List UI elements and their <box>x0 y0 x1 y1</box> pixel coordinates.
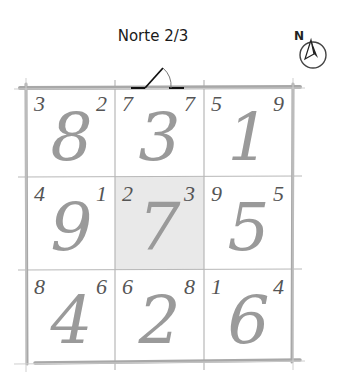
grid-cell-r1c1: 3 8 2 <box>27 87 116 179</box>
cell-right-number: 3 <box>184 183 195 205</box>
grid-cell-r3c2: 6 2 8 <box>115 270 204 362</box>
cell-right-number: 9 <box>273 93 284 115</box>
cell-right-number: 6 <box>96 276 107 298</box>
grid-cell-r1c3: 5 1 9 <box>204 87 293 179</box>
grid-cell-r2c2-center: 2 7 3 <box>115 177 204 269</box>
grid-cell-r1c2: 7 3 7 <box>115 87 204 179</box>
grid-cell-r2c1: 4 9 1 <box>27 177 116 269</box>
cell-right-number: 4 <box>273 276 284 298</box>
grid-cell-r2c3: 9 5 5 <box>204 177 293 269</box>
cell-right-number: 7 <box>184 93 195 115</box>
cell-right-number: 1 <box>96 183 107 205</box>
cell-right-number: 2 <box>96 93 107 115</box>
grid-cell-r3c1: 8 4 6 <box>27 270 116 362</box>
cell-right-number: 5 <box>273 183 284 205</box>
cell-right-number: 8 <box>184 276 195 298</box>
door-swing-icon <box>131 68 184 88</box>
grid-cell-r3c3: 1 6 4 <box>204 270 293 362</box>
